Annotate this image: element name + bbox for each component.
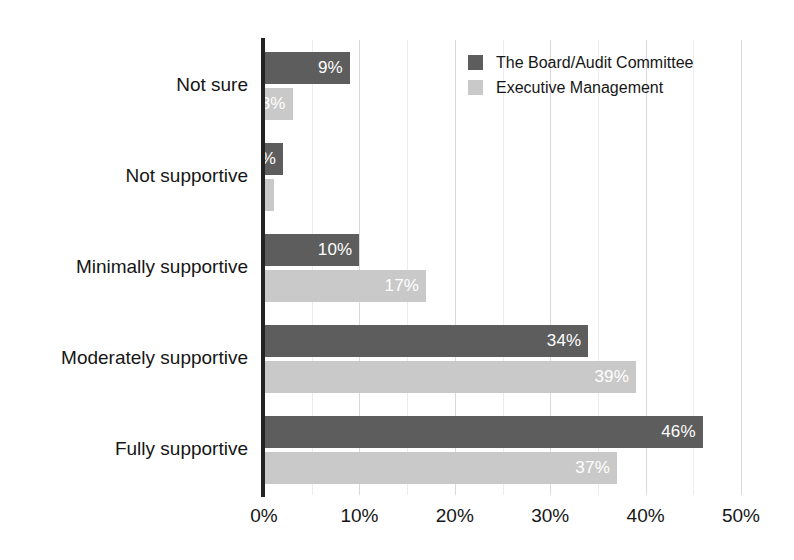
- bar[interactable]: 39%: [264, 361, 636, 393]
- x-tick-label: 50%: [706, 505, 776, 527]
- bar-value-label: 34%: [547, 332, 582, 349]
- legend-swatch-icon-board: [468, 55, 483, 70]
- bar[interactable]: 37%: [264, 452, 617, 484]
- bar-row: [264, 179, 741, 211]
- x-tick-label: 20%: [420, 505, 490, 527]
- bar[interactable]: 46%: [264, 416, 703, 448]
- gridline-50: [741, 40, 742, 495]
- category-label: Not sure: [0, 74, 248, 96]
- legend-item-executive[interactable]: Executive Management: [468, 75, 693, 100]
- bar-row: 10%: [264, 234, 741, 266]
- bar-row: 46%: [264, 416, 741, 448]
- bar[interactable]: 10%: [264, 234, 359, 266]
- bar-group: 34%39%: [264, 313, 741, 404]
- bar-group: 2%: [264, 131, 741, 222]
- bar-row: 17%: [264, 270, 741, 302]
- y-axis-line: [261, 38, 265, 497]
- bar-value-label: 39%: [594, 368, 629, 385]
- bar[interactable]: 34%: [264, 325, 588, 357]
- bar-value-label: 10%: [318, 241, 353, 258]
- legend-label-board: The Board/Audit Committee: [496, 54, 693, 72]
- bar[interactable]: 3%: [264, 88, 293, 120]
- x-tick-label: 40%: [611, 505, 681, 527]
- bar-row: 39%: [264, 361, 741, 393]
- bar[interactable]: 9%: [264, 52, 350, 84]
- legend: The Board/Audit Committee Executive Mana…: [468, 50, 693, 100]
- bar[interactable]: 17%: [264, 270, 426, 302]
- bar-row: 37%: [264, 452, 741, 484]
- legend-swatch-icon-executive: [468, 80, 483, 95]
- bar-value-label: 17%: [385, 277, 420, 294]
- plot-area: 9%3%2%10%17%34%39%46%37%: [264, 40, 741, 495]
- bar-value-label: 9%: [318, 59, 343, 76]
- bar-group: 10%17%: [264, 222, 741, 313]
- horizontal-bar-chart: 9%3%2%10%17%34%39%46%37% Not sureNot sup…: [0, 0, 794, 560]
- category-label: Moderately supportive: [0, 347, 248, 369]
- bar[interactable]: 2%: [264, 143, 283, 175]
- category-label: Fully supportive: [0, 438, 248, 460]
- x-tick-label: 30%: [515, 505, 585, 527]
- bar-row: 2%: [264, 143, 741, 175]
- bar[interactable]: [264, 179, 274, 211]
- x-tick-label: 10%: [324, 505, 394, 527]
- legend-label-executive: Executive Management: [496, 79, 663, 97]
- bar-group: 46%37%: [264, 404, 741, 495]
- category-label: Minimally supportive: [0, 256, 248, 278]
- bar-row: 34%: [264, 325, 741, 357]
- category-label: Not supportive: [0, 165, 248, 187]
- bar-value-label: 46%: [661, 423, 696, 440]
- bar-value-label: 37%: [575, 459, 610, 476]
- x-tick-label: 0%: [229, 505, 299, 527]
- legend-item-board[interactable]: The Board/Audit Committee: [468, 50, 693, 75]
